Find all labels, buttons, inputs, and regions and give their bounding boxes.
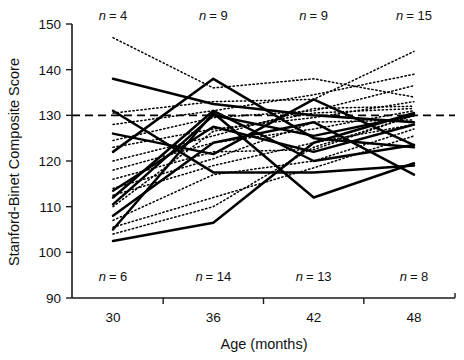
y-tick-label-90: 90 xyxy=(46,291,61,306)
y-tick-label-110: 110 xyxy=(39,200,61,215)
y-tick-label-150: 150 xyxy=(38,17,61,32)
chart-figure: 9010011012013014015030364248 n= 4n= 9n= … xyxy=(0,0,464,360)
x-tick-label-42: 42 xyxy=(306,310,321,325)
trajectory-line-dotted-1 xyxy=(113,38,414,97)
y-tick-label-140: 140 xyxy=(38,63,61,78)
y-axis-title: Stanford-Binet Composite Score xyxy=(6,58,22,266)
sample-size-top-42: n= 9 xyxy=(299,8,328,23)
trajectory-line-dotted-2 xyxy=(113,51,414,113)
y-tick-label-100: 100 xyxy=(38,245,61,260)
sample-size-top-36: n= 9 xyxy=(199,8,228,23)
y-tick-label-120: 120 xyxy=(38,154,61,169)
x-axis-title: Age (months) xyxy=(220,336,307,352)
x-tick-label-48: 48 xyxy=(406,310,421,325)
y-tick-label-130: 130 xyxy=(38,108,61,123)
sample-size-top-30: n= 4 xyxy=(99,8,128,23)
x-tick-label-30: 30 xyxy=(105,310,120,325)
x-tick-label-36: 36 xyxy=(206,310,221,325)
series-layer xyxy=(113,38,414,241)
axes-layer xyxy=(66,24,455,304)
trajectory-line-dotted-3 xyxy=(113,74,414,124)
sample-size-bottom-30: n= 6 xyxy=(99,269,128,284)
trajectory-line-solid-1 xyxy=(113,79,414,122)
sample-size-bottom-42: n= 13 xyxy=(296,269,332,284)
stanford-binet-trajectory-chart: 9010011012013014015030364248 n= 4n= 9n= … xyxy=(0,0,464,360)
sample-size-bottom-36: n= 14 xyxy=(195,269,231,284)
sample-size-bottom-48: n= 8 xyxy=(400,269,429,284)
sample-size-top-48: n= 15 xyxy=(396,8,432,23)
